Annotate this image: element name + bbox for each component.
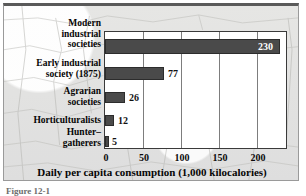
category-label-line: industrial [4, 29, 101, 40]
category-label-agrarian-societies: Agrarian societies [4, 86, 101, 107]
category-label-line: Agrarian [4, 86, 101, 97]
x-axis-title: Daily per capita consumption (1,000 kilo… [4, 166, 299, 178]
bar-agrarian-societies [105, 92, 125, 103]
bar-modern-industrial-societies [105, 39, 280, 54]
category-label-line: Modern [4, 18, 101, 29]
xtick-50: 50 [139, 152, 149, 163]
category-label-line: societies [4, 39, 101, 50]
category-label-line: society (1875) [4, 69, 101, 80]
category-label-line: societies [4, 97, 101, 108]
category-label-line: Horticulturalists [4, 115, 101, 126]
bar-chart: 230 77 26 12 5 Modern industrial societi… [4, 6, 299, 181]
category-label-horticulturalists: Horticulturalists [4, 115, 101, 126]
value-label-hunter-gatherers: 5 [112, 137, 117, 147]
value-label-horticulturalists: 12 [118, 116, 128, 126]
value-label-early-industrial-society: 77 [168, 69, 178, 79]
figure-container: 230 77 26 12 5 Modern industrial societi… [0, 0, 306, 196]
category-label-line: Early industrial [4, 58, 101, 69]
xtick-100: 100 [175, 152, 190, 163]
figure-caption: Figure 12-1 [6, 186, 50, 196]
bar-hunter-gatherers [105, 136, 109, 147]
value-label-modern-industrial-societies: 230 [258, 42, 273, 52]
category-label-hunter-gatherers: Hunter– gatherers [4, 127, 101, 148]
category-label-line: gatherers [4, 138, 101, 149]
xtick-200: 200 [251, 152, 266, 163]
category-label-line: Hunter– [4, 127, 101, 138]
xtick-150: 150 [213, 152, 228, 163]
bar-early-industrial-society [105, 67, 164, 80]
figure-plate: 230 77 26 12 5 Modern industrial societi… [3, 3, 299, 181]
value-label-agrarian-societies: 26 [129, 93, 139, 103]
xtick-0: 0 [104, 152, 109, 163]
category-label-modern-industrial-societies: Modern industrial societies [4, 18, 101, 50]
bar-horticulturalists [105, 115, 114, 126]
category-label-early-industrial-society: Early industrial society (1875) [4, 58, 101, 79]
